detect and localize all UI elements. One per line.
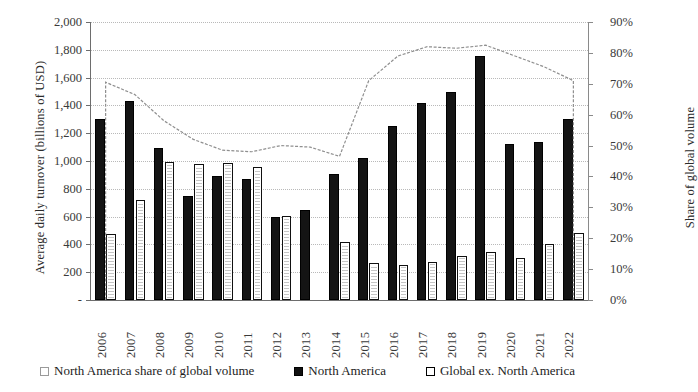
bar-global-ex-na-2016 xyxy=(399,265,409,300)
x-axis-label-2012: 2012 xyxy=(270,332,285,358)
bar-global-ex-na-2006 xyxy=(106,234,116,300)
bar-global-ex-na-2020 xyxy=(516,258,526,300)
y2-tick-mark-80 xyxy=(588,53,593,54)
y2-tick-mark-60 xyxy=(588,115,593,116)
y-axis-right-tick-label: 50% xyxy=(610,140,633,153)
y-axis-left-tick-label: 1,000 xyxy=(54,155,82,168)
legend-item-1[interactable]: North America xyxy=(294,363,386,379)
x-axis-label-2009: 2009 xyxy=(182,332,197,358)
x-axis-labels: 2006200720082009201020112012201320142015… xyxy=(90,302,587,358)
bar-group-2006 xyxy=(91,22,120,300)
y-axis-left-tick-label: 800 xyxy=(63,183,82,196)
y-axis-left-tick-label: 1,600 xyxy=(54,72,82,85)
y-axis-left-ticks: -2004006008001,0001,2001,4001,6001,8002,… xyxy=(30,0,82,392)
bar-global-ex-na-2019 xyxy=(486,252,496,300)
bar-north-america-2021 xyxy=(534,142,544,300)
filled-square-icon xyxy=(294,367,303,376)
y-axis-right-tick-label: 60% xyxy=(610,109,633,122)
bar-group-2008 xyxy=(149,22,178,300)
x-axis-label-2016: 2016 xyxy=(387,332,402,358)
bar-north-america-2016 xyxy=(388,126,398,300)
chart-legend: North America share of global volumeNort… xyxy=(40,360,660,382)
bar-group-2014 xyxy=(325,22,354,300)
x-axis-label-2014: 2014 xyxy=(329,332,344,358)
bar-group-2009 xyxy=(179,22,208,300)
bar-north-america-2012 xyxy=(271,217,281,300)
bar-global-ex-na-2011 xyxy=(253,167,263,300)
x-axis-label-2006: 2006 xyxy=(95,332,110,358)
bar-global-ex-na-2009 xyxy=(194,164,204,300)
bar-group-2017 xyxy=(413,22,442,300)
bars-layer xyxy=(91,22,588,300)
bar-global-ex-na-2018 xyxy=(457,256,467,300)
bar-group-2007 xyxy=(120,22,149,300)
bar-global-ex-na-2010 xyxy=(223,163,233,300)
y2-tick-mark-50 xyxy=(588,146,593,147)
bar-north-america-2020 xyxy=(505,144,515,300)
y-axis-right-title: Share of global volume xyxy=(683,43,698,293)
bar-global-ex-na-2007 xyxy=(136,200,146,300)
y-axis-left-tick-label: 400 xyxy=(63,238,82,251)
bar-north-america-2017 xyxy=(417,103,427,300)
bar-north-america-2019 xyxy=(475,56,485,300)
bar-group-2013 xyxy=(296,22,325,300)
y-axis-right-tick-label: 90% xyxy=(610,16,633,29)
line-swatch-icon xyxy=(40,367,49,376)
x-axis-label-2015: 2015 xyxy=(358,332,373,358)
bar-group-2011 xyxy=(237,22,266,300)
x-axis-label-2011: 2011 xyxy=(241,332,256,358)
bar-north-america-2022 xyxy=(563,119,573,300)
y-axis-right-tick-label: 10% xyxy=(610,263,633,276)
bar-north-america-2013 xyxy=(300,210,310,300)
bar-north-america-2008 xyxy=(154,148,164,300)
legend-item-0[interactable]: North America share of global volume xyxy=(40,363,254,379)
x-axis-label-2008: 2008 xyxy=(153,332,168,358)
bar-group-2015 xyxy=(354,22,383,300)
x-axis-label-2018: 2018 xyxy=(445,332,460,358)
bar-north-america-2014 xyxy=(329,174,339,300)
plot-area xyxy=(90,22,589,300)
bar-global-ex-na-2021 xyxy=(545,244,555,300)
bar-north-america-2011 xyxy=(242,179,252,300)
y2-tick-mark-70 xyxy=(588,84,593,85)
legend-label: North America share of global volume xyxy=(54,363,254,379)
y-axis-left-tick-label: 600 xyxy=(63,211,82,224)
bar-north-america-2018 xyxy=(446,92,456,300)
bar-group-2021 xyxy=(530,22,559,300)
x-axis-label-2021: 2021 xyxy=(533,332,548,358)
y-axis-left-tick-label: 1,400 xyxy=(54,99,82,112)
bar-north-america-2007 xyxy=(125,101,135,300)
y-axis-right-tick-label: 70% xyxy=(610,78,633,91)
y-axis-right-tick-label: 0% xyxy=(610,294,627,307)
bar-group-2010 xyxy=(208,22,237,300)
x-axis-label-2013: 2013 xyxy=(299,332,314,358)
y-axis-left-tick-label: - xyxy=(78,294,82,307)
y-axis-right-ticks: 0%10%20%30%40%50%60%70%80%90% xyxy=(610,0,660,392)
bar-north-america-2010 xyxy=(212,176,222,300)
bar-north-america-2006 xyxy=(95,119,105,300)
y2-tick-mark-0 xyxy=(588,300,593,301)
y-axis-left-tick-label: 2,000 xyxy=(54,16,82,29)
bar-global-ex-na-2014 xyxy=(340,242,350,300)
bar-north-america-2009 xyxy=(183,196,193,300)
bar-group-2018 xyxy=(442,22,471,300)
y-axis-left-tick-label: 200 xyxy=(63,266,82,279)
x-axis-label-2022: 2022 xyxy=(562,332,577,358)
y2-tick-mark-90 xyxy=(588,22,593,23)
bar-global-ex-na-2015 xyxy=(369,263,379,300)
y-axis-left-tick-label: 1,200 xyxy=(54,127,82,140)
y2-tick-mark-30 xyxy=(588,207,593,208)
y2-tick-mark-20 xyxy=(588,238,593,239)
legend-label: North America xyxy=(308,363,386,379)
gridline-0 xyxy=(91,300,588,301)
y-axis-right-tick-label: 40% xyxy=(610,170,633,183)
legend-item-2[interactable]: Global ex. North America xyxy=(426,363,575,379)
bar-global-ex-na-2008 xyxy=(165,162,175,300)
legend-label: Global ex. North America xyxy=(440,363,575,379)
y-axis-right-tick-label: 30% xyxy=(610,201,633,214)
bar-global-ex-na-2022 xyxy=(574,233,584,300)
bar-group-2016 xyxy=(383,22,412,300)
bar-group-2019 xyxy=(471,22,500,300)
bar-group-2012 xyxy=(266,22,295,300)
